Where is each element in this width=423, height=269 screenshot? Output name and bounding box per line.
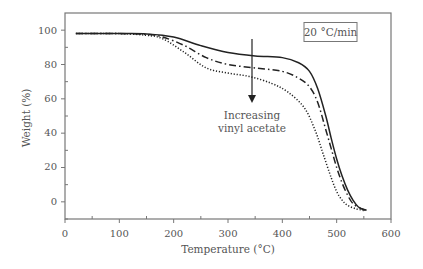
y-tick-label-0: 0 [51, 196, 57, 207]
y-tick-labels: 0 20 40 60 80 100 [38, 25, 57, 207]
x-tick-label-400: 400 [273, 228, 292, 239]
y-tick-label-40: 40 [44, 127, 57, 138]
y-axis-title: Weight (%) [20, 89, 32, 148]
x-tick-label-200: 200 [164, 228, 183, 239]
tga-chart: 0 20 40 60 80 100 0 100 200 300 400 500 … [0, 0, 423, 269]
x-axis-title: Temperature (°C) [181, 243, 275, 255]
x-tick-label-600: 600 [381, 228, 400, 239]
x-tick-label-100: 100 [110, 228, 129, 239]
x-tick-label-0: 0 [62, 228, 68, 239]
x-tick-label-500: 500 [327, 228, 346, 239]
y-tick-label-80: 80 [44, 59, 57, 70]
increasing-vinyl-acetate-arrow [248, 39, 256, 103]
heating-rate-box: 20 °C/min [304, 23, 358, 42]
y-tick-label-60: 60 [44, 93, 57, 104]
annotation-line-2: vinyl acetate [217, 122, 286, 134]
x-tick-label-300: 300 [218, 228, 237, 239]
annotation-line-1: Increasing [224, 109, 281, 121]
rate-box-label: 20 °C/min [304, 26, 358, 38]
x-tick-labels: 0 100 200 300 400 500 600 [62, 228, 401, 239]
y-tick-label-20: 20 [44, 161, 57, 172]
arrow-down-icon [248, 95, 256, 103]
y-tick-label-100: 100 [38, 25, 57, 36]
